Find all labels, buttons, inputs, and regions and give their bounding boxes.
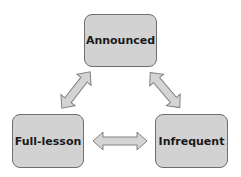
double-arrow-announced-fulllesson xyxy=(55,66,98,113)
node-announced: Announced xyxy=(84,14,157,67)
node-label-full-lesson: Full-lesson xyxy=(15,135,82,148)
node-label-announced: Announced xyxy=(86,34,155,47)
double-arrow-fulllesson-infrequent xyxy=(93,132,147,150)
node-infrequent: Infrequent xyxy=(155,114,228,168)
node-full-lesson: Full-lesson xyxy=(12,114,84,168)
double-arrow-announced-infrequent xyxy=(143,67,186,114)
node-label-infrequent: Infrequent xyxy=(159,135,225,148)
